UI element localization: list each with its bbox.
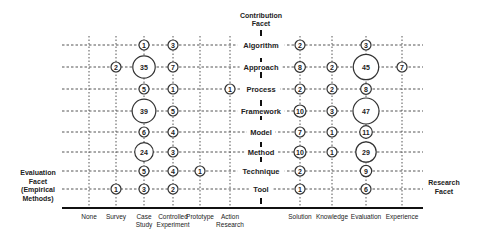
svg-text:45: 45 [362,64,370,71]
column-labels: NoneSurveyCaseStudyControlledExperimentP… [81,213,418,229]
bubble-evaluation-tool: 1 [111,184,121,194]
bubble-research-model: 11 [360,126,373,139]
svg-text:1: 1 [228,86,232,93]
row-label-model: Model [250,128,272,137]
svg-text:11: 11 [362,129,370,136]
bubble-evaluation-framework: 5 [168,106,178,116]
bubble-research-framework: 47 [353,98,379,124]
bubble-evaluation-algorithm: 1 [139,40,149,50]
column-label: Research [216,221,244,228]
bubble-research-tool: 1 [295,184,305,194]
svg-text:29: 29 [362,149,370,156]
svg-text:1: 1 [298,186,302,193]
svg-text:1: 1 [330,149,334,156]
evaluation-facet-title: Facet [29,178,48,185]
svg-text:10: 10 [296,149,304,156]
column-label: Knowledge [316,213,349,221]
bubble-research-algorithm: 2 [295,40,305,50]
svg-text:39: 39 [140,108,148,115]
svg-text:7: 7 [400,64,404,71]
svg-text:2: 2 [171,186,175,193]
svg-text:2: 2 [330,86,334,93]
svg-text:24: 24 [140,149,148,156]
svg-text:35: 35 [140,64,148,71]
bubble-research-algorithm: 3 [361,40,371,50]
svg-text:1: 1 [171,86,175,93]
svg-text:3: 3 [142,186,146,193]
research-facet-title: Facet [435,188,454,195]
row-label-approach: Approach [243,63,278,72]
column-label: Experiment [157,221,190,229]
bubble-evaluation-tool: 3 [139,184,149,194]
evaluation-facet-title: Methods) [22,195,53,203]
bubble-research-technique: 9 [360,165,371,176]
svg-text:1: 1 [330,129,334,136]
bubble-research-process: 2 [295,84,305,94]
svg-text:1: 1 [198,168,202,175]
svg-text:3: 3 [171,42,175,49]
bubble-research-model: 7 [295,127,305,137]
svg-text:2: 2 [114,64,118,71]
bubble-evaluation-process: 1 [168,84,178,94]
row-label-process: Process [246,85,275,94]
bubble-research-approach: 8 [295,62,306,73]
bubble-research-method: 1 [327,147,337,157]
svg-text:7: 7 [171,64,175,71]
bubble-research-process: 2 [327,84,337,94]
bubble-evaluation-process: 5 [139,84,149,94]
bubble-evaluation-tool: 2 [168,184,178,194]
row-label-method: Method [248,148,275,157]
column-label: Controlled [158,213,188,220]
column-label: Action [221,213,239,220]
bubble-evaluation-process: 1 [225,84,235,94]
svg-text:5: 5 [142,168,146,175]
row-label-algorithm: Algorithm [243,41,279,50]
bubble-evaluation-technique: 1 [195,166,205,176]
research-facet-title: Research [428,179,460,186]
column-label: None [81,213,97,220]
svg-text:3: 3 [171,149,175,156]
row-label-technique: Technique [243,167,280,176]
bubble-evaluation-algorithm: 3 [168,40,178,50]
bubble-research-approach: 45 [353,54,378,79]
bubble-evaluation-model: 6 [139,127,149,137]
contribution-facet-title: Facet [252,20,271,27]
bubble-evaluation-technique: 5 [139,166,149,176]
bubble-research-framework: 3 [327,106,337,116]
bubble-chart: 1323575113956424354113223824572281034771… [0,0,477,238]
svg-text:47: 47 [362,108,370,115]
svg-text:9: 9 [364,168,368,175]
svg-text:6: 6 [142,129,146,136]
svg-text:10: 10 [296,108,304,115]
bubble-research-model: 1 [327,127,337,137]
bubble-evaluation-approach: 2 [111,62,121,72]
svg-text:2: 2 [330,64,334,71]
svg-text:6: 6 [364,186,368,193]
bubble-research-process: 8 [361,84,372,95]
bubble-evaluation-method: 24 [135,143,154,162]
column-label: Evaluation [351,213,382,220]
bubble-research-approach: 2 [327,62,337,72]
svg-text:8: 8 [364,86,368,93]
bubble-research-tool: 6 [361,184,371,194]
svg-text:2: 2 [298,42,302,49]
column-label: Solution [288,213,312,220]
bubble-research-technique: 2 [295,166,305,176]
bubble-evaluation-method: 3 [168,147,178,157]
bubble-research-method: 29 [356,142,376,162]
bubble-evaluation-framework: 39 [132,99,156,123]
bubble-evaluation-approach: 7 [168,62,178,72]
bubble-research-framework: 10 [294,105,306,117]
row-label-framework: Framework [241,107,282,116]
svg-text:5: 5 [142,86,146,93]
bubble-research-approach: 7 [397,62,407,72]
column-label: Study [136,221,153,229]
svg-text:1: 1 [142,42,146,49]
column-label: Survey [106,213,127,221]
svg-text:3: 3 [364,42,368,49]
svg-text:2: 2 [298,168,302,175]
contribution-facet-title: Contribution [240,12,282,19]
evaluation-facet-title: Evaluation [20,169,55,176]
row-label-tool: Tool [253,185,268,194]
svg-text:4: 4 [171,129,175,136]
